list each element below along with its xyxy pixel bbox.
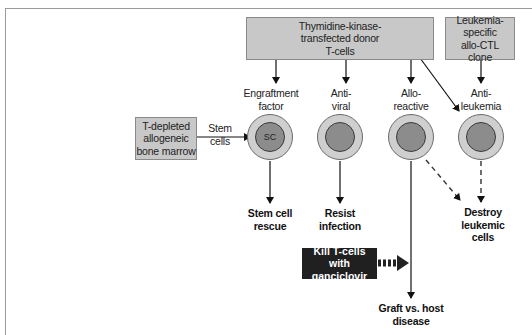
stem-cell-nucleus: SC [255, 122, 285, 152]
cell-label-alloreactive: Allo- reactive [386, 87, 436, 112]
alloreactive-cell-circle [388, 114, 434, 160]
outcome-resist-infection: Resist infection [310, 207, 370, 232]
cell-label-antileukemia: Anti- leukemia [453, 87, 509, 112]
leukemia-ctl-clone-box: Leukemia-specific allo-CTL clone [445, 17, 515, 60]
outcome-gvhd: Graft vs. host disease [371, 302, 451, 327]
antileukemia-cell-nucleus [466, 122, 496, 152]
ganciclovir-intervention-box: Kill T-cells with ganciclovir [302, 248, 377, 279]
alloreactive-cell-nucleus [396, 122, 426, 152]
cell-label-antiviral: Anti- viral [316, 87, 366, 112]
stem-cell-circle: SC [247, 114, 293, 160]
outcome-destroy-leukemic: Destroy leukemic cells [455, 206, 511, 244]
tk-donor-tcells-box: Thymidine-kinase- transfected donor T-ce… [246, 17, 434, 60]
antiviral-cell-nucleus [325, 122, 355, 152]
antiviral-cell-circle [317, 114, 363, 160]
stem-cells-label: Stem cells [203, 122, 237, 147]
bone-marrow-box: T-depleted allogeneic bone marrow [135, 117, 197, 160]
cell-label-engraftment: Engraftment factor [241, 87, 301, 112]
antileukemia-cell-circle [458, 114, 504, 160]
outcome-stem-cell-rescue: Stem cell rescue [240, 207, 300, 232]
